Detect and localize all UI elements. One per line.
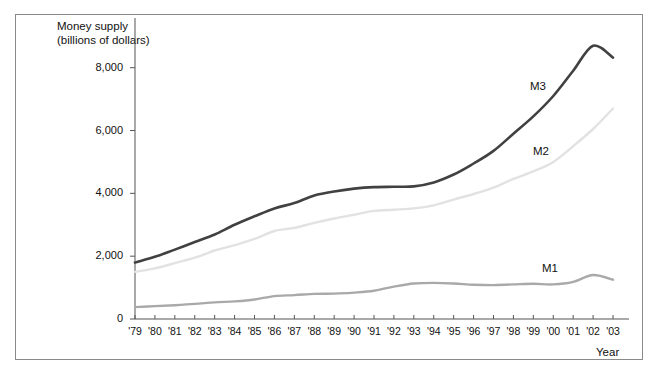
y-tick-label: 2,000 bbox=[63, 249, 123, 261]
y-tick-label: 4,000 bbox=[63, 186, 123, 198]
y-tick-label: 0 bbox=[63, 312, 123, 324]
series-line-m2 bbox=[135, 109, 613, 272]
series-label-m2: M2 bbox=[533, 145, 549, 157]
y-tick-label: 6,000 bbox=[63, 124, 123, 136]
y-tick-label: 8,000 bbox=[63, 61, 123, 73]
series-line-m1 bbox=[135, 275, 613, 307]
series-label-m1: M1 bbox=[542, 262, 558, 274]
x-tick-label: '03 bbox=[600, 325, 626, 337]
series-label-m3: M3 bbox=[530, 80, 546, 92]
